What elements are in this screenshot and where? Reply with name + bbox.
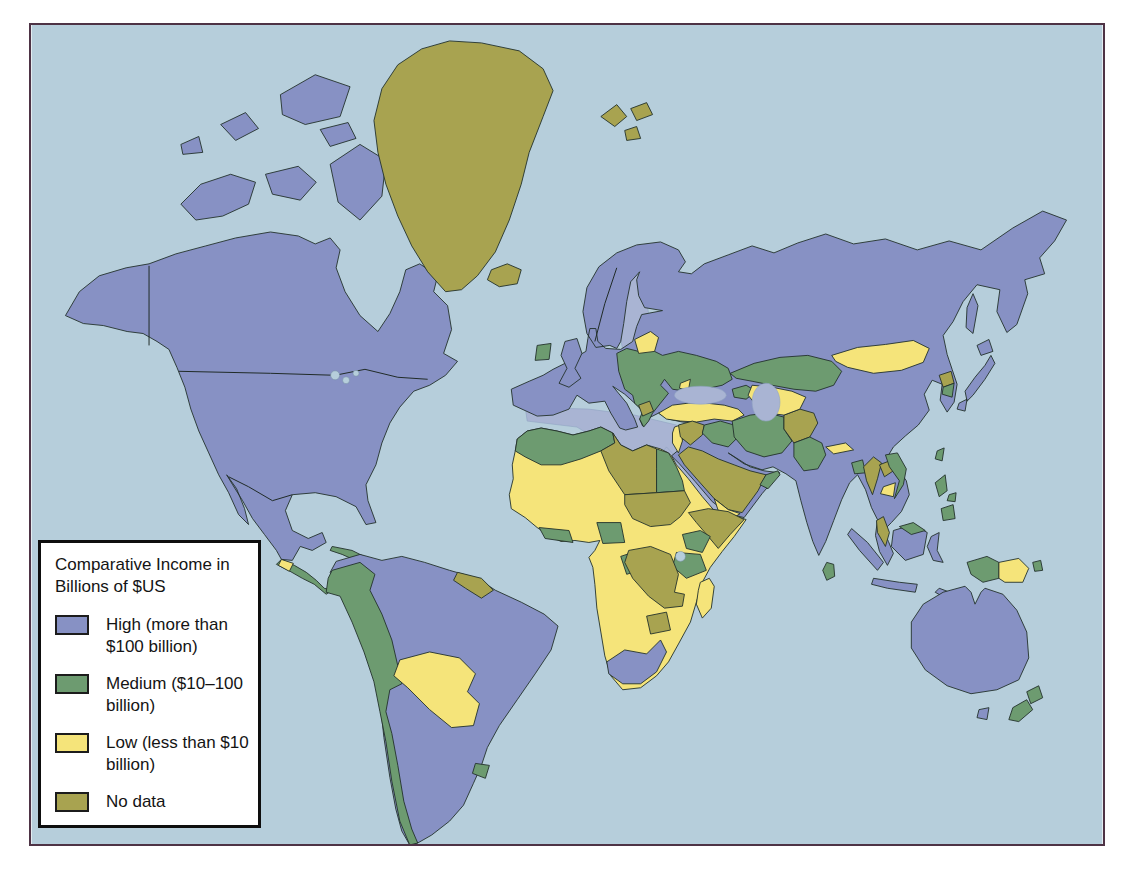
legend-swatch-high	[55, 615, 89, 635]
legend-swatch-nodata	[55, 792, 89, 812]
great-lake-1	[331, 371, 340, 380]
legend-item-nodata: No data	[55, 791, 250, 813]
legend-item-medium: Medium ($10–100 billion)	[55, 673, 250, 717]
region-ireland	[535, 343, 551, 360]
great-lake-3	[353, 370, 359, 376]
region-tasmania	[977, 708, 989, 720]
great-lake-2	[343, 377, 350, 384]
legend-label-low: Low (less than $10 billion)	[106, 732, 250, 776]
region-new-britain	[1033, 560, 1043, 571]
legend-item-high: High (more than $100 billion)	[55, 614, 250, 658]
legend-label-high: High (more than $100 billion)	[106, 614, 250, 658]
caspian-sea	[752, 383, 780, 421]
legend-title: Comparative Income in Billions of $US	[55, 554, 240, 598]
legend: Comparative Income in Billions of $US Hi…	[38, 540, 261, 828]
page: { "figure": { "background": "#ffffff", "…	[0, 0, 1127, 877]
legend-label-medium: Medium ($10–100 billion)	[106, 673, 250, 717]
legend-item-low: Low (less than $10 billion)	[55, 732, 250, 776]
lake-victoria	[675, 551, 685, 561]
legend-swatch-medium	[55, 674, 89, 694]
map-frame: Comparative Income in Billions of $US Hi…	[29, 23, 1105, 846]
legend-swatch-low	[55, 733, 89, 753]
region-zimbabwe	[647, 612, 671, 634]
black-sea	[674, 386, 726, 404]
legend-label-nodata: No data	[106, 791, 250, 813]
